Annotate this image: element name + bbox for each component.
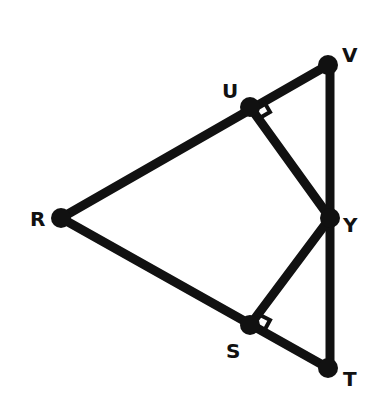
point-U [240, 97, 260, 117]
label-S: S [226, 339, 240, 363]
label-R: R [30, 207, 45, 231]
label-U: U [222, 79, 238, 103]
label-T: T [343, 367, 357, 391]
segment-UY [250, 107, 330, 218]
label-Y: Y [342, 213, 358, 237]
point-Y [320, 208, 340, 228]
geometry-diagram: R U V Y S T [0, 0, 383, 406]
point-S [240, 315, 260, 335]
point-V [318, 55, 338, 75]
segment-RV [61, 65, 328, 218]
label-V: V [342, 43, 358, 67]
segment-RT [61, 218, 328, 368]
point-R [51, 208, 71, 228]
point-T [318, 358, 338, 378]
segment-SY [250, 218, 330, 325]
